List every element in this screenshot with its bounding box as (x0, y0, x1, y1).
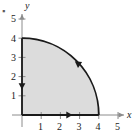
shaded-quarter-disk (22, 38, 99, 115)
y-tick-label-5: 5 (11, 14, 16, 24)
x-tick-label-2: 2 (57, 122, 62, 132)
x-tick-label-3: 3 (77, 122, 82, 132)
x-tick-label-4: 4 (96, 122, 101, 132)
y-tick-label-3: 3 (11, 53, 16, 63)
y-tick-label-2: 2 (11, 72, 16, 82)
quarter-circle-plot (0, 0, 137, 140)
y-tick-label-4: 4 (11, 34, 16, 44)
corner-mark: ▪ (2, 7, 5, 16)
y-tick-label-1: 1 (11, 91, 16, 101)
figure-container: 1 2 3 4 5 1 2 3 4 5 x y ▪ (0, 0, 137, 140)
x-tick-label-5: 5 (115, 122, 120, 132)
y-axis-label: y (25, 1, 29, 11)
x-axis-label: x (127, 110, 131, 120)
x-tick-label-1: 1 (38, 122, 43, 132)
x-axis-arrowhead (119, 113, 125, 118)
